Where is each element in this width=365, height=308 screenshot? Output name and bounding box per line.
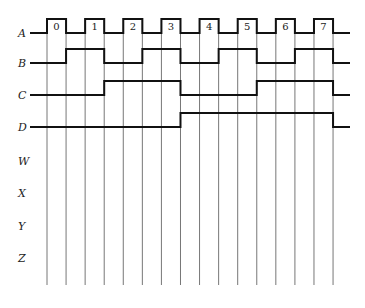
pulse-label: 3 (168, 21, 174, 32)
pulse-label: 0 (53, 21, 59, 32)
pulse-label: 4 (206, 21, 212, 32)
timing-diagram: A01234567BCDWXYZ (0, 0, 365, 308)
waveform-c (30, 81, 350, 95)
signal-label-y: Y (18, 220, 27, 233)
signal-label-b: B (17, 57, 26, 70)
signal-label-w: W (18, 155, 31, 168)
waveforms (30, 19, 350, 127)
waveform-b (30, 49, 350, 63)
signal-label-a: A (17, 27, 26, 40)
pulse-label: 1 (91, 21, 97, 32)
signal-label-x: X (17, 187, 27, 200)
pulse-label: 2 (130, 21, 136, 32)
pulse-label: 5 (244, 21, 250, 32)
signal-label-z: Z (17, 252, 26, 265)
signal-label-c: C (18, 89, 27, 102)
waveform-a (30, 19, 350, 33)
signal-label-d: D (17, 121, 27, 134)
waveform-d (30, 113, 350, 127)
gridlines (47, 18, 333, 285)
pulse-label: 7 (320, 21, 326, 32)
pulse-label: 6 (282, 21, 288, 32)
signal-labels: A01234567BCDWXYZ (17, 21, 327, 265)
